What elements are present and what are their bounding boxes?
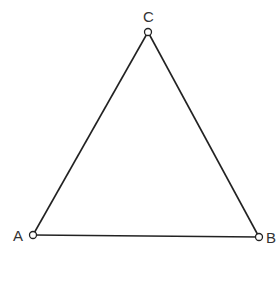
segment-ab [33, 235, 259, 237]
triangle-diagram: A B C [0, 0, 279, 285]
label-c: C [143, 8, 154, 25]
point-a-marker [30, 232, 37, 239]
segment-ca [33, 32, 148, 235]
point-c-marker [145, 29, 152, 36]
point-b-marker [256, 234, 263, 241]
segment-bc [148, 32, 259, 237]
label-b: B [266, 229, 276, 246]
label-a: A [13, 227, 23, 244]
